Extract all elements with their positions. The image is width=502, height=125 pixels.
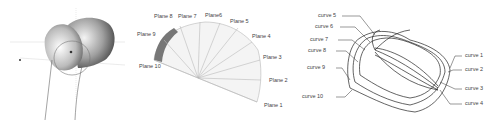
curve-label: curve 4 bbox=[465, 101, 483, 107]
curve-label: curve 2 bbox=[465, 67, 483, 73]
plane-label: Plane 5 bbox=[230, 19, 249, 25]
plane-label: Plane 9 bbox=[137, 32, 156, 38]
plane-label: Plane 2 bbox=[269, 78, 288, 84]
bone-3d-panel bbox=[0, 0, 130, 125]
plane-label: Plane 7 bbox=[178, 14, 197, 20]
plane-label: Plane6 bbox=[205, 13, 222, 19]
curve-label: curve 1 bbox=[465, 53, 483, 59]
plane-label: Plane 3 bbox=[263, 55, 282, 61]
plane-label: Plane 1 bbox=[264, 103, 283, 109]
curve-label: curve 6 bbox=[315, 24, 333, 30]
curve-label: curve 10 bbox=[302, 94, 323, 100]
curve-label: curve 7 bbox=[310, 37, 328, 43]
plane-label: Plane 10 bbox=[139, 64, 161, 70]
curve-label: curve 5 bbox=[318, 13, 336, 19]
curve-label: curve 8 bbox=[308, 48, 326, 54]
plane-label: Plane 8 bbox=[154, 14, 173, 20]
radial-planes-panel: Plane 1 Plane 2 Plane 3 Plane 4 Plane 5 … bbox=[130, 0, 300, 125]
curve-label: curve 9 bbox=[307, 65, 325, 71]
curve-label: curve 3 bbox=[465, 86, 483, 92]
curves-panel: curve 1 curve 2 curve 3 curve 4 curve 5 … bbox=[300, 0, 502, 125]
plane-label: Plane 4 bbox=[252, 34, 271, 40]
bone-3d-illustration bbox=[0, 0, 130, 125]
